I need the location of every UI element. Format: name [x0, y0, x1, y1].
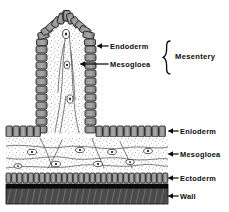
label-endoderm-bottom: Enloderm: [180, 128, 216, 135]
body-wall: [6, 126, 168, 204]
leader-ectoderm: [168, 175, 178, 180]
mesentery-histology-figure: Endoderm Mesogloea Mesentery Enloderm Me…: [0, 0, 229, 212]
label-mesogloea-bottom: Mesogloea: [180, 151, 220, 158]
mesentery-brace: [163, 41, 170, 74]
wall-mesogloea: [6, 137, 168, 170]
label-wall: Wall: [180, 193, 196, 200]
leader-endoderm-top: [97, 43, 108, 48]
mesentery-fold: [36, 10, 96, 134]
wall-ectoderm: [6, 173, 168, 183]
mesogloea-cell: [63, 29, 70, 38]
mesogloea-cell: [67, 95, 73, 103]
leader-endoderm-bottom: [168, 128, 178, 133]
wall-band: [6, 184, 168, 204]
label-mesentery-group: Mesentery: [175, 53, 215, 61]
label-ectoderm: Ectoderm: [180, 175, 216, 182]
label-endoderm-top: Endoderm: [110, 43, 149, 50]
leader-mesogloea-bottom: [168, 151, 178, 156]
leader-wall: [168, 193, 178, 198]
mesogloea-cell: [64, 61, 70, 69]
label-mesogloea-top: Mesogloea: [110, 61, 150, 68]
mesentery-mesogloea: [46, 16, 86, 134]
